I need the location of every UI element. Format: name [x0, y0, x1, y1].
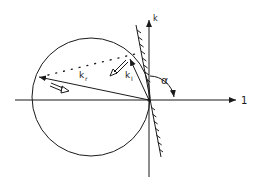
reflected-direction-arrow-icon [50, 83, 69, 93]
horizontal-axis-label: 1 [241, 95, 247, 106]
vertical-axis-label: k [153, 14, 158, 23]
reflection-diagram: 1 k k [0, 0, 256, 187]
reflected-vector-subscript: r [85, 75, 88, 82]
angle-label: α [161, 74, 168, 87]
incident-vector-subscript: I [131, 75, 133, 82]
origin-point [147, 98, 150, 101]
